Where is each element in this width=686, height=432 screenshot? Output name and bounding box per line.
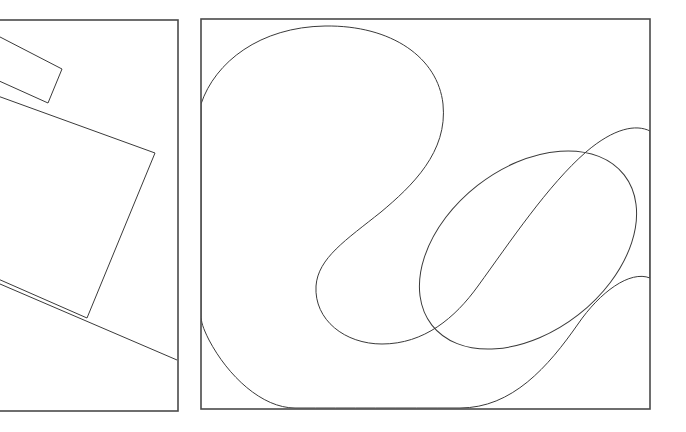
figure-background	[0, 0, 686, 432]
figure-root	[0, 0, 686, 432]
figure-canvas	[0, 0, 686, 432]
